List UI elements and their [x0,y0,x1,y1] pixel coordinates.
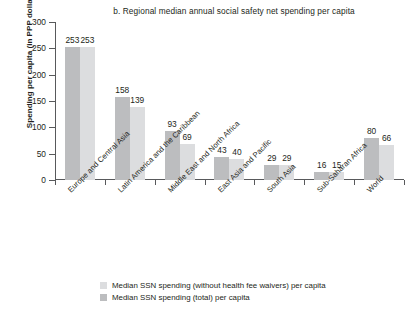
bar-value-label: 253 [65,35,79,45]
x-axis-tick [205,180,206,185]
bar-value-label: 29 [267,153,276,163]
x-axis-tick [55,180,56,185]
bar-value-label: 253 [80,35,94,45]
x-axis-tick [155,180,156,185]
x-axis-tick [404,180,405,185]
y-axis-tick-label: 300 [32,17,46,27]
bar-value-label: 66 [382,133,391,143]
x-axis-tick [354,180,355,185]
legend-swatch-nohfw [100,282,107,289]
bar-pair [354,22,404,180]
x-axis-tick [254,180,255,185]
bar-group: 8066 [354,22,404,180]
y-axis-tick-label: 0 [41,175,46,185]
y-axis-tick-label: 200 [32,70,46,80]
bar-value-label: 80 [367,126,376,136]
chart-container: b. Regional median annual social safety … [0,0,410,312]
y-axis-tick-label: 50 [37,149,46,159]
bar-total [65,47,80,180]
bar-without-health-fee-waivers [379,145,394,180]
x-axis-tick [105,180,106,185]
bar-value-label: 158 [115,85,129,95]
bar-group: 2929 [254,22,304,180]
bar-value-label: 139 [130,95,144,105]
legend-swatch-total [100,294,107,301]
chart-legend: Median SSN spending (without health fee … [100,281,326,302]
legend-item: Median SSN spending (without health fee … [100,281,326,290]
legend-item: Median SSN spending (total) per capita [100,293,326,302]
bar-value-label: 40 [232,147,241,157]
bar-value-label: 69 [182,132,191,142]
bar-pair [254,22,304,180]
bar-value-label: 16 [317,160,326,170]
chart-title: b. Regional median annual social safety … [0,6,410,16]
legend-label: Median SSN spending (total) per capita [112,293,250,302]
y-axis-tick-label: 150 [32,96,46,106]
x-axis-tick [304,180,305,185]
legend-label: Median SSN spending (without health fee … [112,281,326,290]
y-axis-tick-label: 100 [32,122,46,132]
y-axis-tick-label: 250 [32,43,46,53]
